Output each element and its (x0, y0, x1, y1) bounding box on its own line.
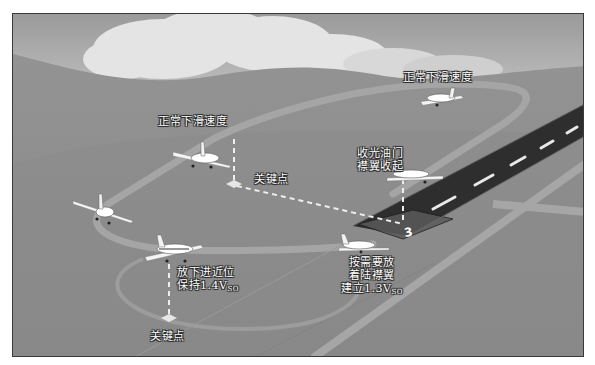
label-gear-line2: 保持1.4VSO (177, 279, 239, 296)
label-final-line2: 着陆襟翼 (341, 269, 403, 282)
diagram-frame: 3 正常下滑速度 正常下滑速度 关键点 收光油门 襟翼收起 放下进近位 保持1.… (12, 13, 584, 357)
label-throttle-line2: 襟翼收起 (357, 160, 403, 173)
label-key-point-mid: 关键点 (254, 173, 289, 186)
label-downwind-speed-left: 正常下滑速度 (158, 115, 227, 128)
label-throttle-flaps: 收光油门 襟翼收起 (357, 147, 403, 173)
traffic-pattern-scene: 3 (13, 14, 584, 357)
label-final-line3: 建立1.3VSO (341, 282, 403, 299)
label-key-point-bottom: 关键点 (150, 330, 185, 343)
label-final-line1: 按需要放 (341, 256, 403, 269)
label-gear-line1: 放下进近位 (177, 266, 239, 279)
label-downwind-speed-top: 正常下滑速度 (403, 71, 472, 84)
label-gear-approach: 放下进近位 保持1.4VSO (177, 266, 239, 296)
label-landing-flaps: 按需要放 着陆襟翼 建立1.3VSO (341, 256, 403, 299)
label-throttle-line1: 收光油门 (357, 147, 403, 160)
